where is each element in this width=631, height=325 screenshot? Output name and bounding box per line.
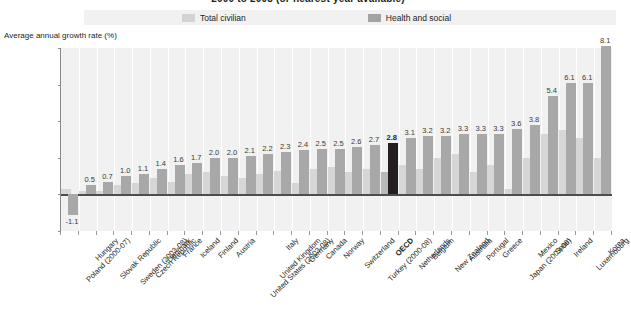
chart-legend: Total civilian Health and social [84, 10, 616, 25]
x-axis-tick [167, 231, 168, 235]
x-axis-tick [451, 231, 452, 235]
x-axis-tick [575, 231, 576, 235]
legend-label-total-civilian: Total civilian [200, 13, 246, 23]
x-axis-tick [256, 231, 257, 235]
bar-data-label: 6.1 [572, 73, 602, 82]
bar-health-and-social [388, 143, 398, 194]
legend-item-total-civilian: Total civilian [182, 10, 246, 25]
legend-label-health-and-social: Health and social [386, 13, 451, 23]
bar-data-label: -1.1 [57, 217, 87, 226]
x-axis-category-label: Switzerland [363, 236, 397, 270]
vertical-gridline [257, 48, 258, 231]
bar-health-and-social [406, 138, 416, 195]
y-axis-tick-mark [58, 85, 61, 86]
x-axis-tick [184, 231, 185, 235]
bar-health-and-social [459, 134, 469, 194]
bar-health-and-social [601, 46, 611, 194]
vertical-gridline [416, 48, 417, 231]
y-axis-tick-mark [58, 48, 61, 49]
x-axis-tick [344, 231, 345, 235]
bar-health-and-social [281, 152, 291, 194]
chart-title: 2000 to 2008 (or nearest year available) [0, 0, 616, 4]
bar-health-and-social [192, 163, 202, 194]
bar-health-and-social [121, 176, 131, 194]
bar-health-and-social [263, 154, 273, 194]
x-axis-tick [273, 231, 274, 235]
x-axis-category-labels: Poland (2000-07)HungarySlovak RepublicSw… [0, 236, 616, 325]
x-axis-tick [96, 231, 97, 235]
vertical-gridline [79, 48, 80, 231]
vertical-gridline [274, 48, 275, 231]
vertical-gridline [221, 48, 222, 231]
bar-health-and-social [157, 169, 167, 195]
x-axis-tick [380, 231, 381, 235]
vertical-gridline [97, 48, 98, 231]
x-axis-tick [238, 231, 239, 235]
x-axis-category-label: Ireland [571, 236, 594, 259]
x-axis-tick [78, 231, 79, 235]
zero-baseline [61, 194, 612, 196]
vertical-gridline [114, 48, 115, 231]
bar-health-and-social [246, 156, 256, 194]
x-axis-tick [131, 231, 132, 235]
bar-health-and-social [441, 136, 451, 195]
bar-health-and-social [548, 96, 558, 195]
x-axis-tick [504, 231, 505, 235]
x-axis-tick [202, 231, 203, 235]
x-axis-category-label: Italy [284, 236, 300, 252]
bar-health-and-social [512, 129, 522, 195]
chart-title-strip: 2000 to 2008 (or nearest year available) [0, 0, 616, 8]
bar-health-and-social [423, 136, 433, 195]
vertical-gridline [203, 48, 204, 231]
x-axis-tick [433, 231, 434, 235]
bar-health-and-social [175, 165, 185, 194]
plot-area: -202468-1.10.50.71.01.11.41.61.72.02.02.… [60, 48, 612, 231]
x-axis-tick [469, 231, 470, 235]
bar-health-and-social [352, 147, 362, 195]
bar-health-and-social [370, 145, 380, 194]
legend-item-health-and-social: Health and social [368, 10, 451, 25]
bar-health-and-social [317, 149, 327, 195]
vertical-gridline [452, 48, 453, 231]
bar-health-and-social [86, 185, 96, 194]
x-axis-tick [327, 231, 328, 235]
y-axis-title: Average annual growth rate (%) [4, 31, 117, 40]
x-axis-tick [398, 231, 399, 235]
x-axis-tick [291, 231, 292, 235]
x-axis-tick [362, 231, 363, 235]
vertical-gridline [488, 48, 489, 231]
legend-swatch-icon-health-and-social [368, 14, 381, 22]
plot-inner: -202468-1.10.50.71.01.11.41.61.72.02.02.… [61, 48, 612, 231]
vertical-gridline [239, 48, 240, 231]
bar-data-label: 3.8 [519, 115, 549, 124]
x-axis-tick [149, 231, 150, 235]
vertical-gridline [434, 48, 435, 231]
vertical-gridline [185, 48, 186, 231]
y-axis-tick-mark [58, 121, 61, 122]
bar-health-and-social [103, 182, 113, 195]
x-axis-tick [558, 231, 559, 235]
vertical-gridline [168, 48, 169, 231]
bar-health-and-social [299, 150, 309, 194]
bar-health-and-social [228, 158, 238, 195]
x-axis-tick [60, 231, 61, 235]
bar-health-and-social [335, 149, 345, 195]
legend-swatch-icon-total-civilian [182, 14, 195, 22]
bar-health-and-social [583, 83, 593, 195]
bar-health-and-social [68, 194, 78, 214]
vertical-gridline [132, 48, 133, 231]
bar-health-and-social [530, 125, 540, 195]
x-axis-tick [522, 231, 523, 235]
bar-data-label: 8.1 [590, 36, 620, 45]
bar-health-and-social [139, 174, 149, 194]
x-axis-tick [540, 231, 541, 235]
x-axis-tick [415, 231, 416, 235]
x-axis-tick [309, 231, 310, 235]
bar-health-and-social [477, 134, 487, 194]
y-axis-tick-mark [58, 158, 61, 159]
vertical-gridline [470, 48, 471, 231]
vertical-gridline [505, 48, 506, 231]
vertical-gridline [150, 48, 151, 231]
x-axis-tick [220, 231, 221, 235]
bar-health-and-social [210, 158, 220, 195]
